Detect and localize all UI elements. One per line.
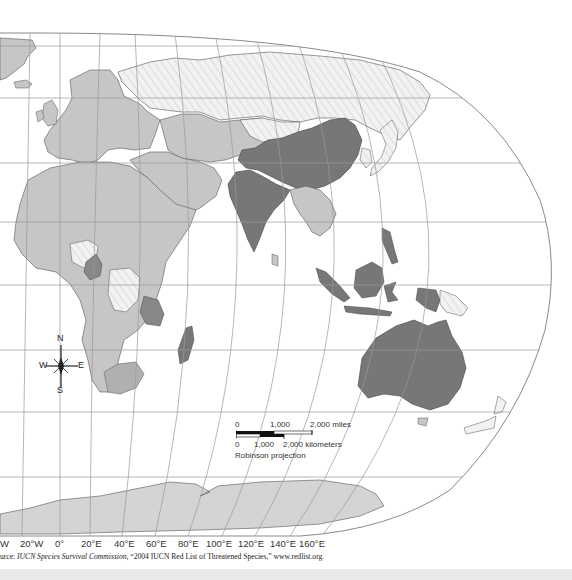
lon-label: 100°E [206,538,232,549]
lon-label: 140°E [270,538,296,549]
lon-label: 80°E [178,538,199,549]
lon-label: W [0,538,9,549]
lon-label: 40°E [114,538,135,549]
scale-km-0: 0 [235,440,239,449]
source-citation: urce: IUCN Species Survival Commission, … [0,552,324,561]
scale-miles-2000: 2,000 miles [310,420,351,429]
scale-bar: 0 1,000 2,000 miles 0 1,000 2,000 kilome… [230,420,390,470]
scale-miles-0: 0 [235,420,239,429]
compass-w: W [39,360,48,370]
scale-km-1000: 1,000 [254,440,274,449]
sri-lanka [272,254,278,266]
lon-label: 0° [55,538,64,549]
lon-label: 20°E [81,538,102,549]
scale-km-2000: 2,000 kilometers [283,440,342,449]
compass-n: N [57,333,64,343]
lon-label: 160°E [299,538,325,549]
scale-bar-graphic [236,430,326,440]
compass-rose: N S W E [36,335,86,395]
compass-s: S [57,385,63,395]
lon-label: 120°E [238,538,264,549]
world-map [0,0,572,580]
source-rest: “2004 IUCN Red List of Threatened Specie… [128,552,324,561]
compass-e: E [78,360,84,370]
projection-label: Robinson projection [235,451,306,460]
source-prefix: urce: [0,552,17,561]
bottom-band [0,569,572,580]
scale-miles-1000: 1,000 [270,420,290,429]
lon-label: 60°E [146,538,167,549]
source-org: IUCN Species Survival Commission, [17,552,128,561]
lon-label: 20°W [20,538,43,549]
